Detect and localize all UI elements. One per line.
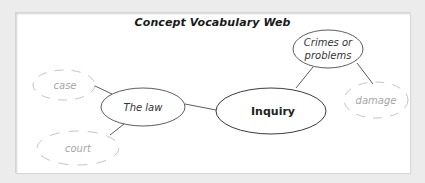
node-the-law-label: The law [124,101,163,114]
node-damage-label: damage [356,94,397,107]
edge-crimes-damage [357,63,373,84]
edge-law-case [95,86,112,94]
concept-web-diagram [0,0,425,183]
edge-crimes-inquiry [296,67,313,88]
edge-law-court [110,124,124,135]
node-crimes-label: Crimes or problems [304,36,352,62]
node-case-label: case [54,79,77,92]
node-crimes-label-line1: Crimes or [304,36,352,49]
edge-law-inquiry [185,104,216,110]
node-inquiry-label: Inquiry [251,105,295,118]
node-crimes-label-line2: problems [304,49,352,62]
node-court-label: court [65,142,91,155]
